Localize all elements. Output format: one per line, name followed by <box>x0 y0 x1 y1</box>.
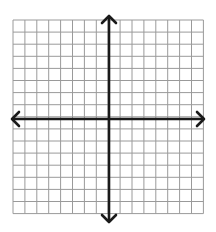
coordinate-plane <box>0 0 216 232</box>
axes <box>12 16 204 222</box>
